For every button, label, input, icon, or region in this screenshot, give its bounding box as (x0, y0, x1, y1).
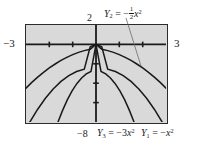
y3-coefficient: −3 (116, 127, 127, 138)
curve-label-y1: Y1 = −x2 (141, 128, 173, 139)
plot-frame (25, 24, 168, 124)
y2-exponent: 2 (139, 8, 142, 15)
plot-canvas (26, 25, 166, 122)
y2-minus-sign: − (123, 8, 129, 19)
y1-subscript: 1 (147, 132, 150, 139)
y3-equals: = (108, 127, 114, 138)
x-axis-max-label: 3 (174, 38, 180, 49)
axes-group (26, 25, 166, 122)
y3-subscript: 3 (103, 132, 106, 139)
y2-subscript: 2 (110, 12, 113, 19)
x-axis-min-label: −3 (3, 38, 15, 49)
y-axis-min-label: −8 (77, 129, 88, 139)
y2-equals: = (115, 8, 121, 19)
y3-exponent: 2 (131, 127, 134, 134)
curve-label-y2: Y2 = −12x2 (104, 6, 142, 21)
y1-equals: = (152, 127, 158, 138)
curve-label-y3: Y3 = −3x2 (97, 128, 134, 139)
figure-container: 2 −3 3 −8 Y2 = −12x2 Y3 = −3x2 Y1 = −x2 (0, 0, 197, 149)
y-axis-max-label: 2 (87, 13, 92, 23)
y1-exponent: 2 (170, 127, 173, 134)
